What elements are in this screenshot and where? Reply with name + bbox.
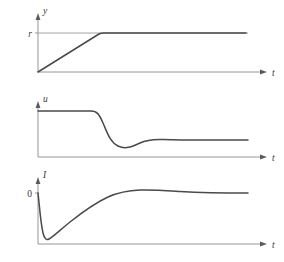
- panel3-curve-i: [38, 190, 248, 240]
- panel3-t-axis-arrow-icon: [260, 242, 267, 247]
- figure-canvas: y t r u t: [0, 0, 284, 262]
- panel1-t-axis-arrow-icon: [260, 70, 267, 75]
- panel3-t-axis-label: t: [272, 240, 275, 250]
- panel1-t-axis-label: t: [272, 68, 275, 78]
- panel1-r-tick-label: r: [28, 29, 32, 39]
- panel1-y-axis-label: y: [42, 6, 48, 16]
- panel2-t-axis-arrow-icon: [260, 155, 267, 160]
- panel3-y-axis-label: I: [42, 170, 47, 180]
- panel3-y-axis-arrow-icon: [36, 177, 41, 184]
- panel-current-response: I t 0: [27, 170, 275, 250]
- panel3-zero-tick-label: 0: [27, 189, 32, 199]
- panel-control-signal-response: u t: [36, 94, 275, 163]
- panel1-y-axis-arrow-icon: [36, 13, 41, 20]
- panel1-curve-y: [38, 33, 246, 72]
- panel2-t-axis-label: t: [272, 153, 275, 163]
- control-response-figure: y t r u t: [0, 0, 284, 262]
- panel2-curve-u: [38, 111, 248, 148]
- panel-output-response: y t r: [28, 6, 275, 78]
- panel2-y-axis-label: u: [43, 94, 48, 104]
- panel2-y-axis-arrow-icon: [36, 101, 41, 108]
